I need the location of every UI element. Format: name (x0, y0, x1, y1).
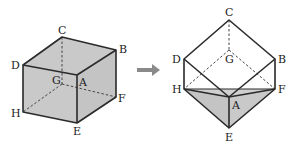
label-F: F (118, 92, 126, 105)
right-cube: C D B G H F A E (172, 6, 286, 144)
label-G: G (225, 53, 234, 66)
label-B: B (278, 53, 286, 66)
label-D: D (172, 53, 181, 66)
label-H: H (11, 107, 21, 120)
label-E: E (225, 131, 233, 144)
right-cube-edges (184, 20, 275, 128)
label-A: A (231, 99, 241, 112)
label-D: D (11, 59, 20, 72)
label-F: F (278, 83, 286, 96)
label-H: H (172, 83, 182, 96)
label-C: C (58, 24, 66, 37)
label-G: G (52, 74, 61, 87)
right-arrow-icon (137, 64, 160, 76)
cube-diagram: C B D A G F H E C D (0, 0, 296, 154)
left-cube: C B D A G F H E (11, 24, 127, 138)
label-C: C (225, 6, 233, 19)
label-A: A (78, 76, 88, 89)
label-E: E (73, 125, 81, 138)
label-B: B (119, 43, 127, 56)
